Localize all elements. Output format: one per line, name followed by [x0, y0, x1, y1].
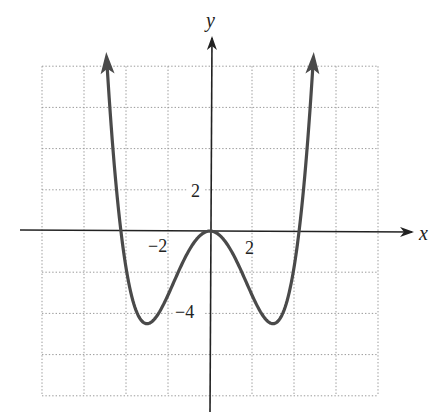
x-tick-label-neg2: −2 — [148, 236, 167, 256]
y-tick-label-2: 2 — [191, 181, 200, 201]
y-tick-label-neg4: −4 — [175, 302, 194, 322]
function-graph: x y 2 −4 −2 2 — [0, 0, 440, 412]
y-axis — [210, 38, 212, 412]
x-axis-label: x — [418, 222, 428, 244]
y-axis-label: y — [204, 9, 215, 32]
x-tick-label-2: 2 — [245, 238, 254, 258]
